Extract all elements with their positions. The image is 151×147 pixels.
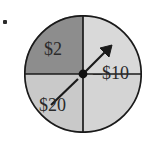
pointer-label: –$10 [93, 64, 129, 82]
spinner-figure: $2 $20 –$10 [0, 0, 151, 147]
slice-label-2: $2 [44, 40, 62, 58]
slice-label-20: $20 [39, 96, 66, 114]
spinner-hub[interactable] [79, 70, 88, 79]
bullet-mark-icon [3, 20, 7, 24]
